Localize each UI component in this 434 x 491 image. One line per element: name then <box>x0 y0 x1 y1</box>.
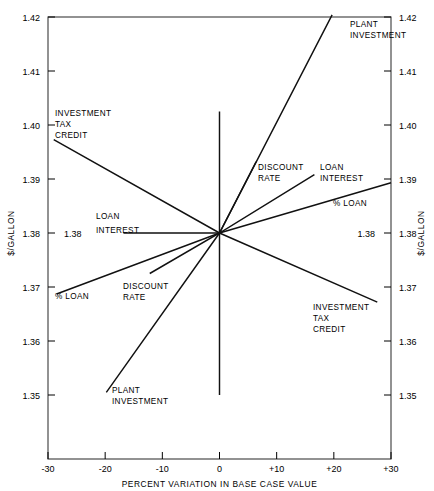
percent-loan-label-right: % LOAN <box>333 199 367 208</box>
y-tick-label-left: 1.35 <box>22 391 40 401</box>
y-axis-title-left: $/GALLON <box>6 210 16 255</box>
y-tick-label-right: 1.42 <box>399 13 417 23</box>
loan-interest-label-right-1: LOAN <box>320 163 344 172</box>
x-axis-title: PERCENT VARIATION IN BASE CASE VALUE <box>122 479 318 489</box>
y-tick-label-left: 1.41 <box>22 67 40 77</box>
y-tick-label-right: 1.41 <box>399 67 417 77</box>
x-tick-label: 0 <box>217 464 222 474</box>
y-tick-label-left: 1.38 <box>22 229 40 239</box>
discount-rate-label-right-1: DISCOUNT <box>258 163 304 172</box>
y-tick-label-left: 1.42 <box>22 13 40 23</box>
y-tick-label-right: 1.35 <box>399 391 417 401</box>
discount-rate-label-left-2: RATE <box>123 293 146 302</box>
y-tick-label-right: 1.40 <box>399 121 417 131</box>
loan-interest-label-left-2: INTEREST <box>96 226 139 235</box>
investment-tax-credit-label-right-1: INVESTMENT <box>313 303 369 312</box>
plant-investment-label-left-2: INVESTMENT <box>112 397 168 406</box>
base-case-label-right: 1.38 <box>357 229 375 239</box>
investment-tax-credit-label-left-2: TAX <box>55 120 72 129</box>
y-tick-label-left: 1.37 <box>22 283 40 293</box>
investment-tax-credit-label-right-2: TAX <box>313 314 330 323</box>
y-tick-label-right: 1.37 <box>399 283 417 293</box>
x-tick-label: +30 <box>383 464 398 474</box>
base-case-label-left: 1.38 <box>64 229 82 239</box>
y-tick-label-right: 1.36 <box>399 337 417 347</box>
loan-interest-label-right-2: INTEREST <box>320 174 363 183</box>
percent-loan-label-left: % LOAN <box>55 292 89 301</box>
x-tick-label: +20 <box>326 464 341 474</box>
chart-canvas: 1.351.351.361.361.371.371.381.381.391.39… <box>0 0 434 491</box>
loan-interest-label-left-1: LOAN <box>96 212 120 221</box>
x-tick-label: +10 <box>269 464 284 474</box>
y-tick-label-left: 1.39 <box>22 175 40 185</box>
discount-rate-label-right-2: RATE <box>258 174 281 183</box>
y-tick-label-right: 1.39 <box>399 175 417 185</box>
discount-rate-label-left-1: DISCOUNT <box>123 282 169 291</box>
plant-investment-label-right-1: PLANT <box>350 20 378 29</box>
y-tick-label-right: 1.38 <box>399 229 417 239</box>
investment-tax-credit-label-left-1: INVESTMENT <box>55 109 111 118</box>
x-tick-label: -20 <box>99 464 112 474</box>
plant-investment-label-left-1: PLANT <box>112 386 140 395</box>
y-tick-label-left: 1.36 <box>22 337 40 347</box>
plant-investment-label-right-2: INVESTMENT <box>350 31 406 40</box>
x-tick-label: -30 <box>41 464 54 474</box>
x-tick-label: -10 <box>156 464 169 474</box>
investment-tax-credit-label-left-3: CREDIT <box>55 131 88 140</box>
y-axis-title-right: $/GALLON <box>416 210 426 255</box>
y-tick-label-left: 1.40 <box>22 121 40 131</box>
sensitivity-spider-chart: 1.351.351.361.361.371.371.381.381.391.39… <box>0 0 434 491</box>
chart-background <box>0 0 434 491</box>
investment-tax-credit-label-right-3: CREDIT <box>313 325 346 334</box>
